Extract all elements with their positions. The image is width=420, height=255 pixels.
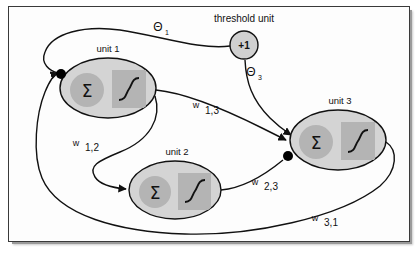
network-diagram: Σ unit 1 Σ unit 2 Σ bbox=[0, 0, 420, 255]
label-theta3: Θ 3 bbox=[246, 65, 262, 81]
label-w12: w 1,2 bbox=[72, 138, 100, 153]
label-theta1-subscript: 1 bbox=[165, 29, 169, 36]
label-theta1: Θ 1 bbox=[153, 20, 169, 36]
label-theta3-symbol: Θ bbox=[246, 65, 255, 79]
unit-2[interactable]: Σ unit 2 bbox=[129, 146, 221, 219]
label-w31-subscript: 3,1 bbox=[324, 217, 338, 228]
label-w23-symbol: w bbox=[251, 177, 259, 187]
label-w13-symbol: w bbox=[192, 100, 200, 110]
unit-3[interactable]: Σ unit 3 bbox=[290, 95, 386, 170]
label-w31: w 3,1 bbox=[311, 213, 339, 228]
unit-1-label: unit 1 bbox=[96, 43, 119, 54]
threshold-unit[interactable]: +1 threshold unit bbox=[214, 13, 274, 59]
unit-3-sum-symbol: Σ bbox=[311, 133, 322, 153]
label-w23-subscript: 2,3 bbox=[264, 181, 278, 192]
unit-3-label: unit 3 bbox=[328, 95, 351, 106]
threshold-unit-value: +1 bbox=[238, 40, 250, 51]
label-w13-subscript: 1,3 bbox=[205, 105, 219, 116]
label-w31-symbol: w bbox=[311, 213, 319, 223]
figure-canvas: Σ unit 1 Σ unit 2 Σ bbox=[0, 0, 420, 255]
label-theta1-symbol: Θ bbox=[153, 20, 162, 34]
label-w12-subscript: 1,2 bbox=[85, 142, 99, 153]
unit-1[interactable]: Σ unit 1 bbox=[60, 43, 156, 118]
junction-dot-unit1-input bbox=[56, 69, 66, 79]
unit-2-label: unit 2 bbox=[165, 146, 188, 157]
label-w23: w 2,3 bbox=[251, 177, 279, 192]
unit-2-sum-symbol: Σ bbox=[150, 183, 161, 203]
label-w12-symbol: w bbox=[72, 138, 80, 148]
junction-dot-unit3-input bbox=[283, 151, 293, 161]
label-theta3-subscript: 3 bbox=[258, 74, 262, 81]
unit-1-sum-symbol: Σ bbox=[82, 81, 93, 101]
threshold-unit-label: threshold unit bbox=[214, 13, 274, 24]
